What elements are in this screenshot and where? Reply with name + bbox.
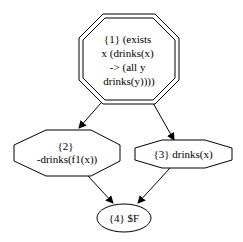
node-2-label-line-2: -drinks(f1(x)) xyxy=(37,153,98,166)
proof-diagram: {1} (exists x (drinks(x) -> (all y drink… xyxy=(0,0,243,242)
node-1-label-line-2: x (drinks(x) xyxy=(102,47,155,60)
edge-3-to-4 xyxy=(138,168,170,203)
node-2-label-line-1: {2} xyxy=(58,140,74,152)
node-4[interactable]: {4} $F xyxy=(97,204,151,232)
edge-2-to-4 xyxy=(88,176,113,203)
edge-1-to-3 xyxy=(153,103,174,140)
node-4-label: {4} $F xyxy=(109,212,139,224)
node-1-label-line-1: {1} (exists xyxy=(104,33,152,46)
node-3-label: {3} drinks(x) xyxy=(153,148,212,161)
node-1-label-line-3: -> (all y xyxy=(110,61,146,74)
svg-text:{3} drinks(x): {3} drinks(x) xyxy=(153,148,212,161)
node-2[interactable]: {2} -drinks(f1(x)) xyxy=(14,130,120,176)
node-1-outer-border xyxy=(79,14,179,104)
node-1[interactable]: {1} (exists x (drinks(x) -> (all y drink… xyxy=(79,14,179,104)
svg-text:{4} $F: {4} $F xyxy=(109,212,139,224)
node-1-label-line-4: drinks(y)))) xyxy=(103,75,155,88)
node-3[interactable]: {3} drinks(x) xyxy=(135,140,232,168)
edge-1-to-2 xyxy=(79,103,101,128)
